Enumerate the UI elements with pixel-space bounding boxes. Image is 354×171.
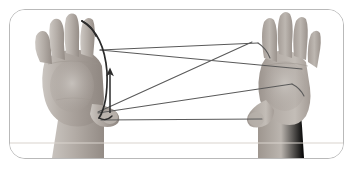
image-card-frame [9,9,344,159]
screenshot-root: Two human hands, palms facing the viewer… [0,0,354,171]
